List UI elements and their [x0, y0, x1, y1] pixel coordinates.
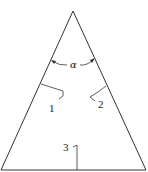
marker-3: 3 — [63, 141, 77, 170]
marker-3-label: 3 — [63, 141, 69, 153]
arrowhead-left-icon — [51, 60, 56, 64]
marker-2-label: 2 — [98, 98, 104, 110]
triangle-outline — [1, 11, 146, 170]
angle-alpha-indicator: α — [51, 58, 95, 70]
marker-2: 2 — [90, 86, 106, 110]
marker-1-label: 1 — [49, 102, 55, 114]
marker-1: 1 — [41, 84, 63, 114]
angle-alpha-label: α — [70, 59, 77, 70]
triangle-diagram: α 1 2 3 — [0, 0, 148, 172]
